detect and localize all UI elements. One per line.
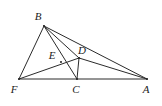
vertex-point-c bbox=[76, 78, 78, 80]
vertex-point-e bbox=[60, 61, 62, 63]
vertex-point-d bbox=[78, 57, 80, 59]
geometry-figure: BFCADE bbox=[0, 0, 162, 106]
vertex-point-a bbox=[146, 78, 148, 80]
segment-d-c bbox=[77, 58, 79, 79]
vertex-point-b bbox=[43, 25, 45, 27]
vertex-label-f: F bbox=[11, 84, 18, 95]
segment-b-a bbox=[44, 26, 147, 79]
vertex-label-e: E bbox=[49, 50, 56, 61]
vertex-label-b: B bbox=[35, 11, 42, 22]
vertex-label-d: D bbox=[78, 45, 86, 56]
vertex-point-f bbox=[18, 78, 20, 80]
vertex-label-a: A bbox=[143, 84, 150, 95]
vertex-label-c: C bbox=[72, 84, 79, 95]
